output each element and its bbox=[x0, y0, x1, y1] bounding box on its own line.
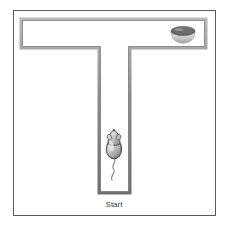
food-bowl-highlight bbox=[175, 28, 183, 30]
food-bowl bbox=[171, 26, 195, 43]
start-label: Start bbox=[106, 200, 124, 209]
mouse-nose bbox=[113, 130, 115, 132]
maze-canvas: Start bbox=[0, 0, 229, 231]
t-maze-figure: Start bbox=[0, 0, 229, 231]
